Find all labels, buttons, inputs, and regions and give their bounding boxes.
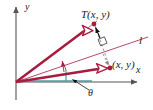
point-T-dot bbox=[92, 22, 97, 27]
pointer-arrow-to-T bbox=[96, 28, 100, 39]
label-axis-x: x bbox=[136, 65, 140, 75]
vector-to-T bbox=[16, 31, 84, 82]
math-figure-reflection: T(x, y) (x, y) l x y θ bbox=[0, 0, 153, 110]
label-axis-y: y bbox=[25, 2, 29, 12]
vector-to-xy bbox=[16, 69, 98, 82]
label-point-xy: (x, y) bbox=[112, 59, 135, 70]
right-angle-marker bbox=[98, 37, 107, 46]
label-point-T: T(x, y) bbox=[81, 9, 110, 20]
label-angle-theta: θ bbox=[88, 88, 93, 98]
label-line-l: l bbox=[139, 35, 142, 46]
coordinate-axes bbox=[16, 7, 137, 100]
pointer-arrow-to-xy bbox=[103, 54, 109, 65]
vector-to-xy-arrowhead bbox=[97, 64, 109, 74]
figure-canvas bbox=[0, 0, 153, 110]
